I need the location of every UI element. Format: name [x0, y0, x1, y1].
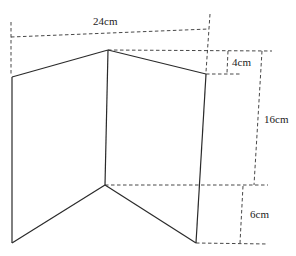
width-label: 24cm	[93, 15, 118, 27]
middle-fold-edge	[105, 50, 108, 185]
right-panel-top-edge	[108, 50, 206, 74]
right-panel-bottom-edge	[105, 185, 196, 243]
bottom-offset-line	[240, 186, 243, 243]
width-dimension-line	[11, 29, 209, 37]
bottom-offset-label: 6cm	[250, 208, 269, 220]
height-dimension: 16cm	[254, 51, 289, 185]
width-extension-right	[206, 14, 210, 72]
bottom-reference-lines	[105, 185, 268, 244]
top-offset-label: 4cm	[232, 56, 251, 68]
left-panel-top-edge	[12, 50, 108, 77]
top-offset-line	[227, 51, 228, 73]
top-middle-horizontal	[108, 50, 272, 51]
width-dimension: 24cm	[11, 14, 210, 75]
height-label: 16cm	[264, 113, 289, 125]
height-dimension-line	[254, 51, 262, 185]
screen-panels	[12, 50, 206, 243]
left-panel-bottom-edge	[12, 185, 105, 243]
folding-screen-diagram: 24cm 4cm 16cm 6cm	[0, 0, 296, 256]
bottom-offset-dimension: 6cm	[240, 186, 269, 243]
bottom-right-horizontal	[196, 243, 268, 244]
right-panel-outer-edge	[196, 74, 206, 243]
top-offset-dimension: 4cm	[227, 51, 251, 73]
